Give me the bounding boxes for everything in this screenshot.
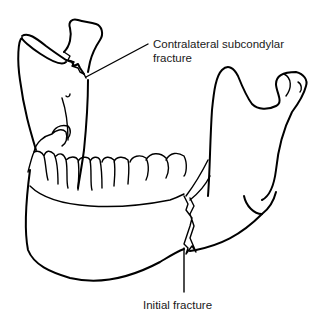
right-ramus [208, 67, 307, 200]
mandible-lower-border [26, 170, 184, 281]
initial-fracture-line [184, 196, 196, 254]
contralateral-fracture-label: Contralateral subcondylar fracture [153, 37, 284, 65]
contralateral-label-line1: Contralateral subcondylar [153, 37, 284, 51]
teeth-row [28, 151, 186, 190]
mandible-diagram: Contralateral subcondylar fracture Initi… [0, 0, 325, 321]
right-condyle-inner [284, 74, 301, 96]
condyle-fragment [64, 19, 102, 72]
molars-upper-left [34, 125, 70, 152]
right-body-lower [190, 192, 276, 251]
right-angle-curve [244, 196, 262, 214]
oblique-ridge [186, 160, 210, 200]
initial-fracture-label: Initial fracture [143, 298, 212, 312]
left-ramus-back [22, 35, 84, 74]
contralateral-label-line2: fracture [153, 51, 284, 65]
gum-line [30, 186, 184, 207]
